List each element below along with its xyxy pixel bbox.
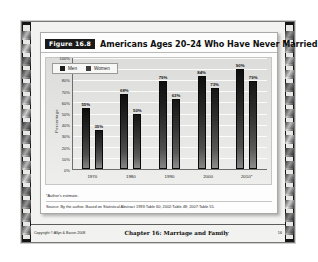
film-frame-artifact xyxy=(22,109,31,118)
film-frame-artifact xyxy=(22,57,31,66)
film-frame-artifact xyxy=(285,70,294,79)
film-frame-artifact xyxy=(22,44,31,53)
y-axis-tick-label: 20% xyxy=(62,145,70,150)
film-frame-artifact xyxy=(285,161,294,170)
film-frame-artifact xyxy=(22,148,31,157)
film-frame-artifact xyxy=(22,200,31,209)
y-axis-tick-label: 60% xyxy=(62,100,70,105)
figure-source: Source: By the author. Based on Statisti… xyxy=(46,204,272,210)
bar-fill xyxy=(198,76,206,169)
footer-page-number: 16 xyxy=(268,231,282,235)
bar-fill xyxy=(249,81,257,169)
bar-fill xyxy=(133,114,141,170)
bar-group: 90%79% xyxy=(230,58,263,169)
film-frame-artifact xyxy=(285,187,294,196)
film-frame-artifact xyxy=(22,122,31,131)
bar-men-1980: 68% xyxy=(120,58,128,169)
bar-women-1980: 50% xyxy=(133,58,141,169)
film-frame-artifact xyxy=(22,187,31,196)
legend-swatch-men-icon xyxy=(60,66,65,71)
y-axis-tick-label: 30% xyxy=(62,134,70,139)
legend-item-women: Women xyxy=(86,66,110,71)
x-axis-tick-label: 2000 xyxy=(192,174,225,179)
film-frame-artifact xyxy=(285,109,294,118)
chart-bars: 55%35%68%50%79%63%84%73%90%79% xyxy=(73,58,266,169)
legend-label-men: Men xyxy=(68,66,77,71)
film-frame-artifact xyxy=(285,135,294,144)
bar-women-2010: 79% xyxy=(249,58,257,169)
bar-fill xyxy=(82,108,90,169)
bar-men-1970: 55% xyxy=(82,58,90,169)
chart-plot-area: Percentage 100%90%80%70%60%50%40%30%20%1… xyxy=(45,57,272,185)
x-axis-tick-label: 1990 xyxy=(153,174,186,179)
film-frame-artifact xyxy=(285,122,294,131)
figure-header: Figure 16.8 Americans Ages 20–24 Who Hav… xyxy=(41,33,277,53)
bar-value-label: 35% xyxy=(94,124,103,129)
legend-item-men: Men xyxy=(60,66,77,71)
bar-value-label: 84% xyxy=(197,70,206,75)
notes-divider xyxy=(46,201,272,202)
footer-chapter-title: Chapter 16: Marriage and Family xyxy=(85,230,268,236)
film-frame-artifact xyxy=(285,148,294,157)
bar-value-label: 79% xyxy=(249,75,258,80)
legend-label-women: Women xyxy=(94,66,110,71)
bar-women-2000: 73% xyxy=(211,58,219,169)
bar-group: 68%50% xyxy=(114,58,147,169)
bar-women-1990: 63% xyxy=(172,58,180,169)
bar-fill xyxy=(172,99,180,169)
figure-card: Figure 16.8 Americans Ages 20–24 Who Hav… xyxy=(40,32,278,214)
bar-fill xyxy=(211,88,219,169)
bar-value-label: 63% xyxy=(172,93,181,98)
film-frame-artifact xyxy=(285,174,294,183)
film-frame-artifact xyxy=(285,200,294,209)
y-axis-tick-label: 0% xyxy=(64,168,70,173)
bar-value-label: 90% xyxy=(236,63,245,68)
film-frame-artifact xyxy=(22,174,31,183)
bar-value-label: 50% xyxy=(133,108,142,113)
film-frame-artifact xyxy=(285,226,294,235)
film-frame-artifact xyxy=(22,226,31,235)
bar-value-label: 79% xyxy=(159,75,168,80)
bar-group: 84%73% xyxy=(192,58,225,169)
figure-footnote: *Author's estimate. xyxy=(46,193,272,199)
bar-men-2000: 84% xyxy=(198,58,206,169)
y-axis-tick-label: 100% xyxy=(60,56,70,61)
chart-legend: Men Women xyxy=(52,63,118,74)
y-axis-ticks: 100%90%80%70%60%50%40%30%20%10%0% xyxy=(53,58,71,170)
film-frame-artifact xyxy=(22,213,31,222)
slide-frame: Figure 16.8 Americans Ages 20–24 Who Hav… xyxy=(21,21,295,243)
film-frame-artifact xyxy=(22,161,31,170)
bar-fill xyxy=(159,81,167,169)
film-frame-artifact xyxy=(285,213,294,222)
film-frame-artifact xyxy=(22,96,31,105)
film-frame-artifact xyxy=(22,31,31,40)
film-frame-artifact xyxy=(22,135,31,144)
bar-value-label: 55% xyxy=(81,102,90,107)
y-axis-tick-label: 70% xyxy=(62,89,70,94)
bar-value-label: 68% xyxy=(120,88,129,93)
bar-women-1970: 35% xyxy=(95,58,103,169)
film-frame-artifact xyxy=(285,96,294,105)
slide-footer: Copyright © Allyn & Bacon 2008 Chapter 1… xyxy=(31,224,285,240)
figure-notes: *Author's estimate. Source: By the autho… xyxy=(46,193,272,210)
legend-swatch-women-icon xyxy=(86,66,91,71)
film-frame-artifact xyxy=(285,57,294,66)
figure-number-tag: Figure 16.8 xyxy=(45,39,95,49)
x-axis-tick-label: 1980 xyxy=(114,174,147,179)
x-axis-tick-label: 1970 xyxy=(76,174,109,179)
y-axis-tick-label: 10% xyxy=(62,156,70,161)
bar-men-2010: 90% xyxy=(236,58,244,169)
y-axis-tick-label: 50% xyxy=(62,112,70,117)
bar-value-label: 73% xyxy=(210,82,219,87)
bar-men-1990: 79% xyxy=(159,58,167,169)
bar-fill xyxy=(236,69,244,169)
film-frame-artifact xyxy=(22,70,31,79)
page-title: Americans Ages 20–24 Who Have Never Marr… xyxy=(100,39,316,49)
y-axis-tick-label: 40% xyxy=(62,123,70,128)
bar-group: 55%35% xyxy=(76,58,109,169)
film-frame-artifact xyxy=(285,83,294,92)
x-axis-ticks: 19701980199020002010* xyxy=(73,170,266,183)
bar-fill xyxy=(120,94,128,169)
bar-group: 79%63% xyxy=(153,58,186,169)
y-axis-tick-label: 80% xyxy=(62,78,70,83)
